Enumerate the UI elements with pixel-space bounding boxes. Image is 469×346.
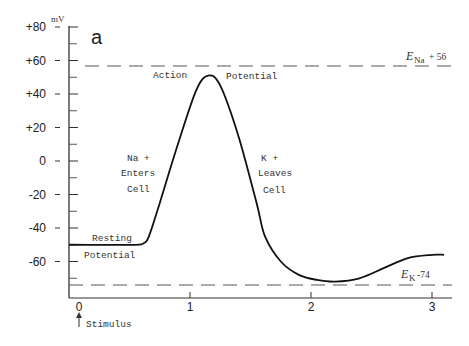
label-stimulus: Stimulus <box>86 319 132 330</box>
y-tick-label: 0 <box>39 154 46 168</box>
label-enters: Enters <box>121 168 155 179</box>
svg-text:Na: Na <box>414 55 425 65</box>
stimulus-marker <box>76 312 82 327</box>
x-tick-label: 3 <box>429 300 436 314</box>
panel-label: a <box>91 26 103 48</box>
y-tick-label: +80 <box>26 20 47 34</box>
y-tick-label: -40 <box>29 221 47 235</box>
label-potential: Potential <box>226 71 278 82</box>
e-na-label: E Na + 56 <box>405 49 446 65</box>
e-k-label: E K -74 <box>400 267 430 283</box>
svg-text:E: E <box>400 267 409 281</box>
label-k-cell: Cell <box>263 185 286 196</box>
label-leaves: Leaves <box>258 168 292 179</box>
svg-text:-74: -74 <box>417 270 430 280</box>
label-resting: Resting <box>92 233 132 244</box>
label-action: Action <box>153 70 187 81</box>
label-na: Na + <box>127 153 150 164</box>
x-ticks: 0123 <box>76 292 436 314</box>
y-tick-label: -60 <box>29 255 47 269</box>
x-tick-label: 0 <box>76 300 83 314</box>
x-tick-label: 1 <box>187 300 194 314</box>
label-na-cell: Cell <box>127 184 150 195</box>
svg-text:+ 56: + 56 <box>429 52 446 62</box>
svg-text:E: E <box>405 49 414 63</box>
label-resting-potential: Potential <box>84 250 136 261</box>
y-tick-label: +40 <box>26 87 47 101</box>
x-tick-label: 2 <box>308 300 315 314</box>
y-tick-label: +20 <box>26 121 47 135</box>
y-tick-label: -20 <box>29 188 47 202</box>
action-potential-chart: +80+60+40+200-20-40-60 0123 mV a E Na + … <box>0 0 469 346</box>
y-ticks: +80+60+40+200-20-40-60 <box>26 20 78 278</box>
y-tick-label: +60 <box>26 54 47 68</box>
y-axis-unit-label: mV <box>51 14 65 24</box>
label-k: K + <box>261 153 278 164</box>
svg-text:K: K <box>409 273 416 283</box>
